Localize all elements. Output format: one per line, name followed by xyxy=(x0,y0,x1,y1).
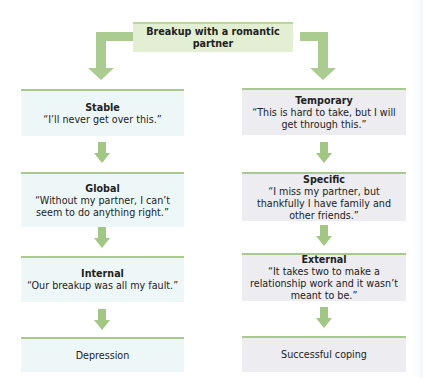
node-title: Temporary xyxy=(246,95,402,107)
down-arrow-icon xyxy=(94,309,110,331)
node-quote: “I’ll never get over this.” xyxy=(25,114,180,126)
node-quote: “It takes two to make a relationship wor… xyxy=(246,266,402,302)
left-node-stable: Stable “I’ll never get over this.” xyxy=(21,89,184,136)
outcome-label: Depression xyxy=(25,350,180,362)
root-to-left-arrow-icon xyxy=(88,32,134,82)
node-quote: “Our breakup was all my fault.” xyxy=(25,280,180,292)
root-event-box: Breakup with a romantic partner xyxy=(133,22,293,52)
root-event-label: Breakup with a romantic partner xyxy=(137,26,289,50)
root-to-right-arrow-icon xyxy=(300,32,340,82)
down-arrow-icon xyxy=(316,225,332,247)
down-arrow-icon xyxy=(94,142,110,164)
right-node-external: External “It takes two to make a relatio… xyxy=(242,253,406,301)
node-title: Global xyxy=(25,183,180,195)
down-arrow-icon xyxy=(94,227,110,249)
left-node-internal: Internal “Our breakup was all my fault.” xyxy=(21,256,184,302)
right-node-temporary: Temporary “This is hard to take, but I w… xyxy=(242,88,406,135)
left-outcome-depression: Depression xyxy=(21,337,184,372)
right-outcome-successful-coping: Successful coping xyxy=(242,336,406,372)
down-arrow-icon xyxy=(316,142,332,164)
down-arrow-icon xyxy=(316,307,332,329)
node-quote: “I miss my partner, but thankfully I hav… xyxy=(246,186,402,222)
node-title: Specific xyxy=(246,174,402,186)
right-node-specific: Specific “I miss my partner, but thankfu… xyxy=(242,172,406,221)
left-node-global: Global “Without my partner, I can’t seem… xyxy=(21,172,184,227)
node-title: Stable xyxy=(25,102,180,114)
node-quote: “This is hard to take, but I will get th… xyxy=(246,107,402,131)
outcome-label: Successful coping xyxy=(246,349,402,361)
node-quote: “Without my partner, I can’t seem to do … xyxy=(25,195,180,219)
node-title: Internal xyxy=(25,268,180,280)
node-title: External xyxy=(246,254,402,266)
page-edge-shading xyxy=(413,0,423,378)
